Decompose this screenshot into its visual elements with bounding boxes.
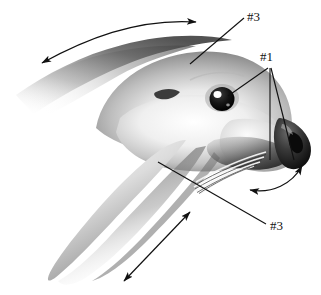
eye bbox=[210, 87, 235, 111]
figure-canvas bbox=[0, 0, 321, 295]
label-top-3: #3 bbox=[247, 10, 260, 23]
lower-jaw-mass bbox=[58, 146, 206, 285]
eye-highlight-secondary bbox=[226, 104, 230, 107]
eye-highlight bbox=[214, 91, 222, 98]
throat-shape bbox=[48, 140, 186, 281]
seal-head-diagram: #3 #1 #3 bbox=[0, 0, 321, 295]
label-measure-1: #1 bbox=[260, 50, 273, 63]
seal-head-illustration bbox=[14, 36, 311, 285]
label-bottom-3: #3 bbox=[270, 219, 283, 232]
leader-bottom-3 bbox=[158, 162, 266, 224]
